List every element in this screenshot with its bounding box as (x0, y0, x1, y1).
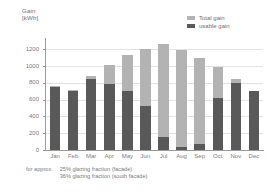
bar-segment-total-gain (158, 44, 169, 138)
y-axis-title: Gain[kWh] (22, 7, 38, 22)
bar-segment-usable-gain (140, 106, 151, 150)
bar-group (158, 41, 169, 150)
gain-bar-chart: Gain[kWh] 020040060080010001200 JanFebMa… (0, 0, 276, 192)
legend-item-total-gain: Total gain (187, 14, 230, 22)
x-axis-tick-label: Dec (242, 153, 266, 159)
legend-swatch-usable-gain (187, 24, 195, 28)
x-axis-line (45, 150, 264, 151)
footnote-line-1: 25% glazing fraction (facade) (60, 166, 148, 173)
bar-segment-total-gain (104, 65, 115, 83)
bar-segment-usable-gain (194, 144, 205, 150)
bar-group (140, 41, 151, 150)
y-axis-tick-label: 600 (13, 96, 39, 102)
bar-segment-usable-gain (122, 91, 133, 150)
bar-segment-total-gain (140, 49, 151, 106)
bar-segment-total-gain (176, 50, 187, 146)
y-axis-tick-label: 1000 (13, 63, 39, 69)
bar-segment-usable-gain (213, 98, 224, 150)
bar-group (104, 41, 115, 150)
bar-segment-usable-gain (50, 87, 61, 150)
bar-group (176, 41, 187, 150)
bar-segment-usable-gain (68, 91, 79, 150)
bar-segment-usable-gain (176, 147, 187, 150)
y-axis-tick-label: 0 (13, 147, 39, 153)
legend-item-usable-gain: usable gain (187, 22, 230, 30)
bar-group (122, 41, 133, 150)
legend-swatch-total-gain (187, 16, 195, 20)
bar-group (194, 41, 205, 150)
plot-area: 020040060080010001200 (46, 41, 263, 150)
y-axis-tick-label: 1200 (13, 46, 39, 52)
bar-segment-total-gain (194, 58, 205, 144)
legend-label-total-gain: Total gain (199, 14, 225, 22)
bar-segment-total-gain (122, 55, 133, 91)
chart-legend: Total gain usable gain (187, 14, 230, 30)
y-axis-tick-label: 800 (13, 79, 39, 85)
y-axis-tick-label: 400 (13, 113, 39, 119)
bar-series-container (46, 41, 263, 150)
bar-group (213, 41, 224, 150)
bar-group (68, 41, 79, 150)
bar-group (249, 41, 260, 150)
bar-segment-usable-gain (231, 83, 242, 150)
y-axis-title-line2: [kWh] (22, 14, 38, 21)
bar-segment-total-gain (213, 67, 224, 98)
bar-segment-usable-gain (86, 79, 97, 150)
bar-segment-usable-gain (249, 91, 260, 150)
bar-group (86, 41, 97, 150)
footnote-line-2: 36% glazing fraction (south facade) (60, 173, 148, 180)
footnote-lead: for approx. (26, 166, 53, 180)
bar-group (231, 41, 242, 150)
y-axis-tick-label: 200 (13, 130, 39, 136)
legend-label-usable-gain: usable gain (199, 22, 230, 30)
bar-segment-usable-gain (104, 84, 115, 150)
y-axis-title-line1: Gain (22, 7, 35, 14)
y-axis-tick (43, 150, 46, 151)
chart-footnote: for approx. 25% glazing fraction (facade… (26, 166, 147, 180)
bar-group (50, 41, 61, 150)
bar-segment-usable-gain (158, 137, 169, 150)
